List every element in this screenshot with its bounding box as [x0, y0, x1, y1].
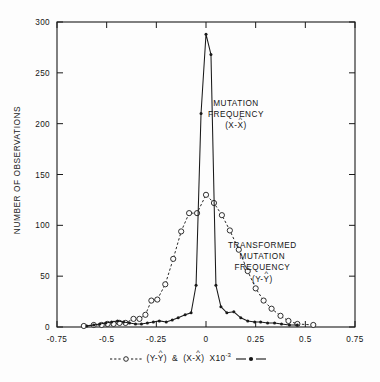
chart-figure: NUMBER OF OBSERVATIONS -0.75-0.5-0.2500.… — [0, 0, 380, 382]
data-point-marker — [104, 321, 107, 324]
data-point-marker — [227, 228, 232, 233]
y-tick-3: 150 — [35, 171, 50, 180]
data-point-marker — [205, 33, 208, 36]
legend-scale-factor: X10-3 — [207, 353, 233, 363]
x-tick-5: 0.5 — [299, 335, 312, 344]
axis-ticks — [57, 22, 355, 327]
data-point-marker — [146, 321, 149, 324]
annotation-line-2: MUTATION — [228, 251, 297, 262]
data-point-marker — [259, 320, 262, 323]
x-tick-1: -0.5 — [99, 335, 115, 344]
data-point-marker — [184, 313, 187, 316]
y-tick-6: 300 — [35, 18, 50, 27]
data-point-marker — [140, 322, 143, 325]
data-point-marker — [239, 316, 242, 319]
data-point-marker — [219, 305, 222, 308]
data-point-marker — [225, 311, 228, 314]
data-point-marker — [85, 324, 88, 327]
y-tick-2: 100 — [35, 221, 50, 230]
data-point-marker — [261, 298, 266, 303]
y-tick-5: 250 — [35, 69, 50, 78]
data-point-marker — [203, 192, 208, 197]
data-point-marker — [149, 298, 154, 303]
data-point-marker — [311, 322, 316, 327]
data-point-marker — [179, 229, 184, 234]
data-point-marker — [195, 284, 198, 287]
annotation-line-1: MUTATION — [208, 98, 264, 109]
annotation-line-3: (X-^X) — [208, 120, 264, 131]
data-point-marker — [214, 284, 217, 287]
chart-plot-area: -0.75-0.5-0.2500.250.50.75 0501001502002… — [0, 0, 380, 382]
data-point-marker — [253, 320, 256, 323]
annotation-line-1: TRANSFORMED — [228, 240, 297, 251]
x-tick-2: -0.25 — [146, 335, 167, 344]
annotation-transformed-mutation-frequency: TRANSFORMED MUTATION FREQUENCY (Y-^Y) — [228, 240, 297, 285]
plot-frame — [57, 22, 355, 327]
annotation-mutation-frequency: MUTATION FREQUENCY (X-^X) — [208, 98, 264, 132]
data-point-marker — [116, 319, 119, 322]
data-point-marker — [128, 321, 131, 324]
data-point-marker — [286, 318, 291, 323]
data-point-marker — [122, 320, 125, 323]
data-point-marker — [177, 316, 180, 319]
x-tick-6: 0.75 — [346, 335, 363, 344]
annotation-line-4: (Y-^Y) — [228, 274, 297, 285]
data-point-marker — [278, 313, 283, 318]
data-point-marker — [246, 319, 249, 322]
data-point-marker — [190, 311, 193, 314]
data-point-marker — [155, 297, 160, 302]
data-point-marker — [171, 318, 174, 321]
data-point-marker — [266, 321, 269, 324]
legend-label-y: (Y-^Y) — [147, 353, 167, 363]
data-point-marker — [232, 310, 235, 313]
data-point-marker — [131, 316, 136, 321]
annotation-line-3: FREQUENCY — [228, 262, 297, 273]
y-tick-0: 0 — [45, 323, 50, 332]
x-tick-3: 0 — [204, 335, 209, 344]
x-tick-4: 0.25 — [247, 335, 264, 344]
data-point-marker — [163, 282, 168, 287]
data-point-marker — [280, 322, 283, 325]
data-point-marker — [134, 322, 137, 325]
chart-legend: (Y-^Y) & (X-^X) X10-3 — [0, 352, 380, 363]
y-axis-tick-labels: 050100150200250300 — [35, 18, 50, 332]
data-point-marker — [253, 286, 258, 291]
data-point-marker — [137, 316, 142, 321]
legend-ampersand: & — [169, 353, 180, 363]
data-point-marker — [158, 319, 161, 322]
data-point-marker — [200, 112, 203, 115]
x-axis-tick-labels: -0.75-0.5-0.2500.250.50.75 — [47, 335, 364, 344]
data-point-marker — [209, 53, 212, 56]
data-point-marker — [165, 320, 168, 323]
data-point-marker — [219, 213, 224, 218]
data-point-marker — [269, 306, 274, 311]
data-point-marker — [296, 323, 299, 326]
x-tick-0: -0.75 — [47, 335, 68, 344]
data-point-marker — [143, 312, 148, 317]
data-point-marker — [152, 320, 155, 323]
solid-filled-circle-legend-icon — [236, 355, 270, 363]
legend-label-x: (X-^X) — [183, 353, 204, 363]
data-point-marker — [110, 320, 113, 323]
y-tick-1: 50 — [40, 272, 50, 281]
data-point-marker — [273, 321, 276, 324]
annotation-line-2: FREQUENCY — [208, 109, 264, 120]
data-point-marker — [288, 323, 291, 326]
dashed-open-circle-legend-icon — [110, 355, 144, 363]
data-point-marker — [171, 256, 176, 261]
y-tick-4: 200 — [35, 120, 50, 129]
data-point-marker — [98, 322, 101, 325]
data-point-marker — [194, 211, 199, 216]
data-point-marker — [187, 211, 192, 216]
data-point-marker — [92, 323, 95, 326]
